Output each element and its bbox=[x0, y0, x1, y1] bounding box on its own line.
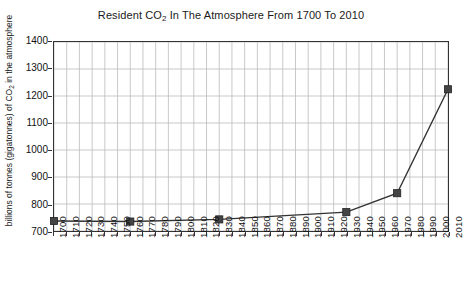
x-axis-tick-mark bbox=[104, 232, 105, 236]
x-axis-tick-mark bbox=[436, 232, 437, 236]
x-axis-tick-mark bbox=[142, 232, 143, 236]
x-axis-tick-mark bbox=[232, 232, 233, 236]
x-axis-tick-mark bbox=[91, 232, 92, 236]
x-axis-tick-mark bbox=[194, 232, 195, 236]
chart-title-suffix: In The Atmosphere From 1700 To 2010 bbox=[166, 9, 364, 21]
y-axis-tick-mark bbox=[48, 232, 52, 233]
x-axis-tick-mark bbox=[398, 232, 399, 236]
x-axis-tick-mark bbox=[347, 232, 348, 236]
x-axis-tick-mark bbox=[423, 232, 424, 236]
y-axis-tick-label: 1400 bbox=[4, 35, 48, 47]
y-axis-tick-label: 1000 bbox=[4, 144, 48, 156]
x-axis-tick-mark bbox=[117, 232, 118, 236]
x-axis-tick-mark bbox=[308, 232, 309, 236]
y-axis-tick-mark bbox=[48, 41, 52, 42]
y-axis-tick-label: 1200 bbox=[4, 90, 48, 102]
x-axis-tick-mark bbox=[385, 232, 386, 236]
x-axis-tick-mark bbox=[53, 232, 54, 236]
y-axis-tick-mark bbox=[48, 68, 52, 69]
chart-title-prefix: Resident CO bbox=[98, 9, 162, 21]
chart-title-subscript: 2 bbox=[162, 14, 167, 23]
x-axis-tick-mark bbox=[257, 232, 258, 236]
data-point-marker bbox=[444, 86, 451, 93]
y-axis-tick-label: 900 bbox=[4, 171, 48, 183]
series-line bbox=[54, 89, 448, 221]
x-axis-tick-mark bbox=[360, 232, 361, 236]
y-axis-tick-label: 1100 bbox=[4, 117, 48, 129]
x-axis-tick-mark bbox=[219, 232, 220, 236]
y-axis-tick-label: 800 bbox=[4, 199, 48, 211]
x-axis-tick-mark bbox=[283, 232, 284, 236]
y-axis-tick-label: 1300 bbox=[4, 62, 48, 74]
y-axis-tick-mark bbox=[48, 150, 52, 151]
x-axis-tick-label: 2010 bbox=[453, 216, 464, 238]
chart-title: Resident CO2 In The Atmosphere From 1700… bbox=[0, 9, 462, 21]
y-axis-tick-label: 700 bbox=[4, 226, 48, 238]
y-axis-tick-mark bbox=[48, 96, 52, 97]
x-axis-tick-mark bbox=[206, 232, 207, 236]
x-axis-tick-mark bbox=[334, 232, 335, 236]
data-point-marker bbox=[394, 190, 401, 197]
x-axis-tick-mark bbox=[66, 232, 67, 236]
x-axis-tick-mark bbox=[79, 232, 80, 236]
y-axis-tick-mark bbox=[48, 205, 52, 206]
x-axis-tick-mark bbox=[296, 232, 297, 236]
x-axis-tick-mark bbox=[181, 232, 182, 236]
data-series bbox=[54, 42, 448, 231]
x-axis-ticks: 1700171017201730174017501760177017801790… bbox=[53, 232, 449, 287]
x-axis-tick-mark bbox=[270, 232, 271, 236]
data-point-marker bbox=[343, 209, 350, 216]
x-axis-tick-mark bbox=[372, 232, 373, 236]
x-axis-tick-mark bbox=[411, 232, 412, 236]
x-axis-tick-mark bbox=[449, 232, 450, 236]
x-axis-tick-mark bbox=[245, 232, 246, 236]
x-axis-tick-mark bbox=[321, 232, 322, 236]
y-axis-tick-mark bbox=[48, 123, 52, 124]
y-axis-tick-mark bbox=[48, 177, 52, 178]
plot-area bbox=[53, 41, 449, 232]
x-axis-tick-mark bbox=[168, 232, 169, 236]
x-axis-tick-mark bbox=[130, 232, 131, 236]
x-axis-tick-mark bbox=[155, 232, 156, 236]
y-axis-ticks: 70080090010001100120013001400 bbox=[0, 41, 48, 232]
